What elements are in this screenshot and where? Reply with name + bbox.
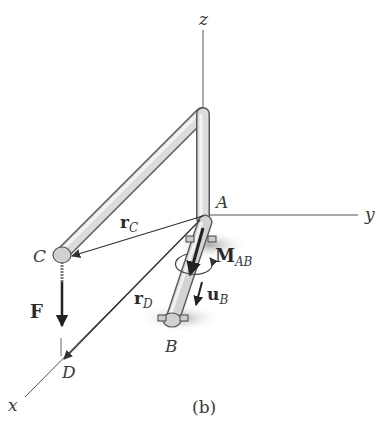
ub-label: uB bbox=[207, 284, 228, 307]
ub-arrow bbox=[196, 282, 202, 305]
point-d-label: D bbox=[61, 362, 76, 382]
rc-label: rC bbox=[120, 212, 138, 235]
pipe-assembly bbox=[53, 112, 205, 327]
z-axis-label: z bbox=[198, 9, 209, 29]
f-label: F bbox=[30, 301, 43, 322]
y-axis-label: y bbox=[364, 204, 375, 224]
point-c-label: C bbox=[33, 246, 46, 266]
figure-caption: (b) bbox=[192, 397, 216, 417]
point-a-label: A bbox=[214, 192, 228, 212]
diagram-canvas: z y x A B C D rC rD uB MAB F (b) bbox=[0, 0, 390, 433]
rd-label: rD bbox=[134, 288, 153, 311]
x-axis-label: x bbox=[8, 395, 18, 415]
point-b-label: B bbox=[164, 336, 178, 356]
mab-label: MAB bbox=[215, 245, 253, 269]
